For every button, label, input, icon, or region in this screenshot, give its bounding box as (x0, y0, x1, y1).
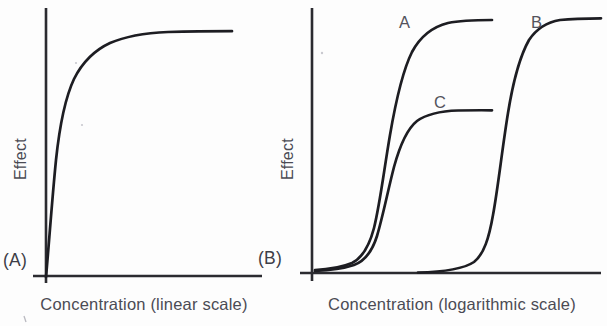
panel-a-y-axis-label: Effect (12, 138, 29, 180)
panel-b-curve-c (315, 110, 492, 271)
curve-label-c: C (434, 93, 446, 111)
curve-label-b: B (531, 13, 542, 31)
panel-b-tag: (B) (258, 248, 282, 268)
panel-a-tag: (A) (3, 250, 27, 270)
panel-b: A B C Effect Concentration (logarithmic … (258, 8, 601, 313)
dose-response-figure: Effect Concentration (linear scale) (A) … (0, 0, 607, 326)
curve-label-a: A (399, 13, 410, 31)
panel-a: Effect Concentration (linear scale) (A) (3, 8, 262, 313)
panel-a-curve (46, 31, 232, 277)
panel-b-y-axis-label: Effect (279, 138, 296, 180)
scan-artifact-mark (24, 316, 26, 322)
panel-b-curve-a (315, 20, 492, 270)
figure-root: Effect Concentration (linear scale) (A) … (0, 0, 607, 326)
panel-a-x-axis-label: Concentration (linear scale) (40, 295, 247, 313)
scan-speck (81, 124, 83, 126)
panel-b-curve-b (418, 18, 601, 272)
scan-speck (75, 62, 77, 64)
panel-b-x-axis-label: Concentration (logarithmic scale) (328, 295, 576, 313)
scan-speck (321, 52, 323, 54)
